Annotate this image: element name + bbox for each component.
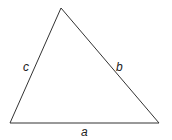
side-label-c: c xyxy=(23,60,29,74)
side-label-b: b xyxy=(116,60,123,74)
triangle-shape xyxy=(10,8,159,123)
triangle-diagram: c b a xyxy=(0,0,172,140)
side-label-a: a xyxy=(81,125,88,139)
